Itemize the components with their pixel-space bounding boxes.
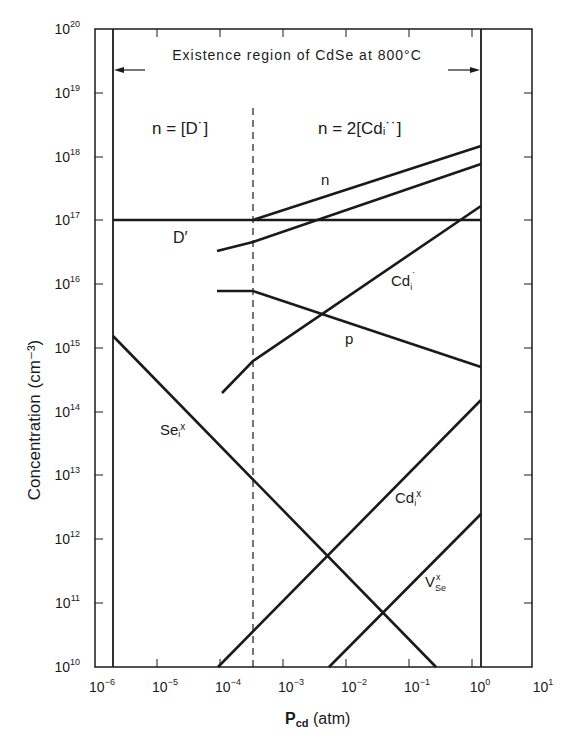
label-vse-x: VSex <box>425 572 446 593</box>
label-p: p <box>345 330 353 347</box>
label-cdi-dot: Cdi˙ <box>391 270 416 292</box>
series-n <box>253 146 481 220</box>
svg-text:1020: 1020 <box>54 19 80 37</box>
svg-text:100: 100 <box>470 677 491 695</box>
svg-text:1019: 1019 <box>54 83 80 101</box>
label-d-prime: D′ <box>173 229 188 246</box>
svg-text:1018: 1018 <box>54 147 80 165</box>
region-right-label: n = 2[Cdᵢ˙˙] <box>318 119 401 138</box>
series-n-low <box>217 164 481 251</box>
y-axis-title: Concentration(cm⁻³) <box>25 340 44 501</box>
svg-text:1013: 1013 <box>54 465 80 483</box>
svg-text:10−6: 10−6 <box>89 677 115 695</box>
svg-text:1017: 1017 <box>54 210 80 228</box>
label-n: n <box>321 171 329 188</box>
x-axis-title: Pcd (atm) <box>285 710 350 729</box>
svg-text:1012: 1012 <box>54 529 80 547</box>
region-left-label: n = [D˙] <box>152 119 208 138</box>
svg-text:10−1: 10−1 <box>404 677 430 695</box>
svg-text:1014: 1014 <box>54 402 80 420</box>
svg-text:1011: 1011 <box>55 593 80 611</box>
chart: 1020 1019 1018 1017 1016 1015 1014 1013 … <box>0 0 561 741</box>
svg-text:10−4: 10−4 <box>215 677 241 695</box>
svg-text:10−2: 10−2 <box>341 677 367 695</box>
svg-text:1016: 1016 <box>54 274 80 292</box>
series-cdi-dot <box>222 206 481 393</box>
series-vse-x <box>329 514 481 667</box>
svg-text:10−3: 10−3 <box>278 677 304 695</box>
series-cdi-x <box>218 400 481 667</box>
series-p <box>217 291 481 367</box>
existence-label: Existence region of CdSe at 800°C <box>172 47 422 63</box>
x-tick-labels: 10−6 10−5 10−4 10−3 10−2 10−1 100 101 <box>89 677 553 695</box>
series-sei-x <box>113 336 436 667</box>
existence-arrows <box>114 67 480 73</box>
label-cdi-x: Cdix <box>395 488 421 508</box>
y-tick-labels: 1020 1019 1018 1017 1016 1015 1014 1013 … <box>54 19 80 675</box>
svg-text:101: 101 <box>533 677 554 695</box>
svg-text:10−5: 10−5 <box>152 677 178 695</box>
svg-text:1015: 1015 <box>54 338 80 356</box>
svg-text:1010: 1010 <box>54 657 80 675</box>
label-sei-x: Seix <box>160 421 185 439</box>
